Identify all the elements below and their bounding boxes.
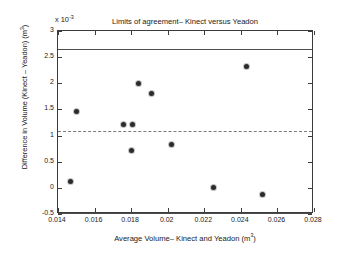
y-tick-mark	[58, 83, 62, 84]
x-tick-mark	[168, 31, 169, 35]
data-point	[68, 179, 73, 184]
data-point	[121, 122, 126, 127]
y-tick-label: 0.5	[44, 157, 54, 165]
x-tick-mark	[277, 31, 278, 35]
data-point	[130, 122, 135, 127]
data-point	[244, 64, 249, 69]
x-tick-mark	[204, 31, 205, 35]
data-point	[149, 91, 154, 96]
y-tick-mark	[308, 31, 312, 32]
y-tick-label: 1.5	[44, 104, 54, 112]
x-tick-label: 0.02	[160, 216, 174, 224]
chart-title: Limits of agreement– Kinect versus Yeado…	[57, 17, 313, 26]
data-point	[74, 109, 79, 114]
y-tick-label: 2.5	[44, 52, 54, 60]
upper-limit-of-agreement	[58, 49, 312, 50]
data-point	[129, 148, 134, 153]
y-tick-mark	[58, 214, 62, 215]
x-tick-mark	[131, 208, 132, 212]
x-tick-mark	[95, 208, 96, 212]
x-tick-mark	[131, 31, 132, 35]
x-tick-label: 0.018	[121, 216, 139, 224]
x-tick-label: 0.024	[231, 216, 249, 224]
y-tick-mark	[58, 109, 62, 110]
x-tick-label: 0.014	[48, 216, 66, 224]
y-tick-mark	[58, 136, 62, 137]
y-tick-label: 2	[50, 78, 54, 86]
mean-difference	[58, 131, 312, 132]
y-tick-mark	[58, 57, 62, 58]
x-axis-label: Average Volume– Kinect and Yeadon (m3)	[57, 231, 313, 243]
x-axis-tick-labels: 0.0140.0160.0180.020.0220.0240.0260.028	[57, 216, 313, 226]
y-tick-mark	[308, 214, 312, 215]
bland-altman-chart: x 10-3 Limits of agreement– Kinect versu…	[0, 0, 338, 261]
x-tick-mark	[58, 208, 59, 212]
data-point	[211, 185, 216, 190]
y-tick-mark	[58, 188, 62, 189]
x-tick-label: 0.016	[85, 216, 103, 224]
x-tick-mark	[314, 208, 315, 212]
plot-area	[57, 30, 313, 213]
lower-limit-of-agreement	[58, 213, 312, 214]
data-point	[169, 142, 174, 147]
x-tick-mark	[241, 208, 242, 212]
y-tick-mark	[58, 162, 62, 163]
y-tick-mark	[308, 136, 312, 137]
x-tick-mark	[241, 31, 242, 35]
x-tick-mark	[204, 208, 205, 212]
y-axis-label-wrap: Difference in Volume (Kinect – Yeadon) (…	[17, 0, 29, 197]
y-axis-label: Difference in Volume (Kinect – Yeadon) (…	[17, 0, 30, 197]
data-point	[260, 192, 265, 197]
x-tick-mark	[314, 31, 315, 35]
data-point	[136, 81, 141, 86]
y-tick-label: 3	[50, 26, 54, 34]
x-tick-label: 0.022	[195, 216, 213, 224]
y-tick-label: 0	[50, 183, 54, 191]
x-tick-mark	[95, 31, 96, 35]
x-tick-mark	[168, 208, 169, 212]
x-tick-mark	[58, 31, 59, 35]
x-tick-label: 0.026	[268, 216, 286, 224]
y-tick-mark	[308, 57, 312, 58]
y-tick-label: 1	[50, 131, 54, 139]
y-tick-mark	[308, 83, 312, 84]
x-tick-mark	[277, 208, 278, 212]
y-tick-mark	[308, 188, 312, 189]
y-tick-mark	[308, 109, 312, 110]
x-tick-label: 0.028	[304, 216, 322, 224]
y-tick-mark	[308, 162, 312, 163]
